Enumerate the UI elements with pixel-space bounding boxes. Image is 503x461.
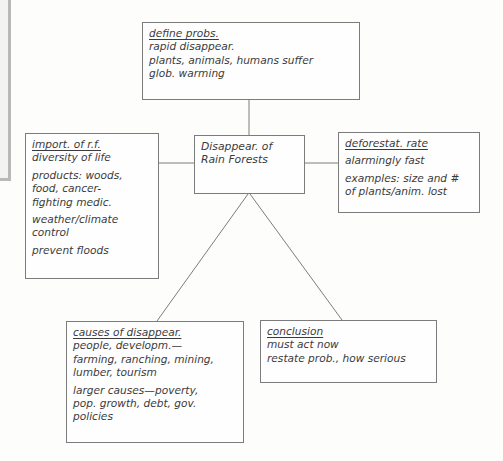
branch-text: pop. growth, debt, gov. [73, 397, 237, 410]
branch-causes: causes of disappear. people, developm.— … [66, 321, 244, 443]
branch-text: lumber, tourism [73, 366, 237, 379]
branch-text: glob. warming [149, 67, 353, 80]
branch-heading: conclusion [267, 325, 430, 338]
branch-text: people, developm.— [73, 339, 237, 352]
branch-heading: define probs. [149, 27, 353, 40]
branch-heading: causes of disappear. [73, 326, 237, 339]
branch-define-problem: define probs. rapid disappear. plants, a… [142, 22, 360, 100]
branch-text: food, cancer- [32, 182, 152, 195]
connector-center-to-conclusion [250, 194, 342, 320]
branch-text: products: woods, [32, 169, 152, 182]
branch-importance: import. of r.f. diversity of life produc… [25, 133, 159, 279]
branch-heading: deforestat. rate [345, 137, 473, 150]
branch-text: plants, animals, humans suffer [149, 54, 353, 67]
branch-text: fighting medic. [32, 196, 152, 209]
branch-deforestation-rate: deforestat. rate alarmingly fast example… [338, 132, 480, 213]
central-topic-text: Disappear. of [201, 140, 298, 153]
branch-text: weather/climate [32, 213, 152, 226]
branch-text: examples: size and # [345, 172, 473, 185]
branch-text: control [32, 226, 152, 239]
branch-text: policies [73, 410, 237, 423]
central-topic: Disappear. of Rain Forests [194, 135, 305, 194]
branch-text: prevent floods [32, 244, 152, 257]
branch-conclusion: conclusion must act now restate prob., h… [260, 320, 437, 383]
branch-text: alarmingly fast [345, 154, 473, 167]
branch-text: must act now [267, 338, 430, 351]
branch-text: larger causes—poverty, [73, 384, 237, 397]
branch-text: restate prob., how serious [267, 352, 430, 365]
branch-text: of plants/anim. lost [345, 185, 473, 198]
branch-text: farming, ranching, mining, [73, 353, 237, 366]
branch-text: rapid disappear. [149, 40, 353, 53]
central-topic-text: Rain Forests [201, 153, 298, 166]
branch-heading: import. of r.f. [32, 138, 152, 151]
branch-text: diversity of life [32, 151, 152, 164]
connector-center-to-causes [157, 194, 248, 321]
